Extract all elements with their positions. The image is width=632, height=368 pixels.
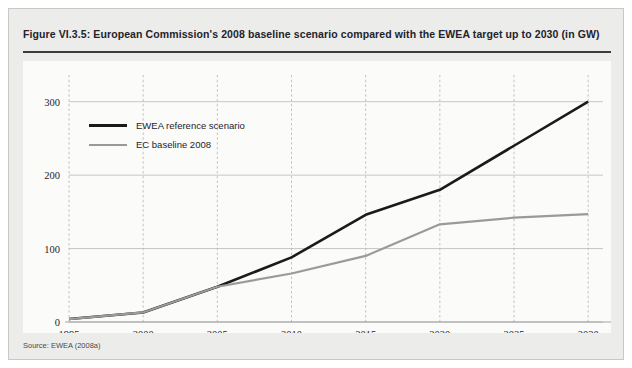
figure-title-bar: Figure VI.3.5: European Commission's 200…	[23, 21, 611, 53]
line-chart: 0100200300 19952000200520102015202020252…	[23, 61, 611, 333]
svg-text:2020: 2020	[429, 329, 450, 333]
svg-text:1995: 1995	[59, 329, 80, 333]
figure-title: Figure VI.3.5: European Commission's 200…	[23, 21, 611, 47]
y-axis-tick-labels: 0100200300	[44, 97, 60, 328]
svg-text:100: 100	[44, 244, 60, 255]
legend-label-ewea: EWEA reference scenario	[136, 120, 245, 131]
svg-text:2015: 2015	[355, 329, 376, 333]
vertical-gridlines	[69, 75, 588, 322]
svg-text:200: 200	[44, 170, 60, 181]
chart-legend: EWEA reference scenario EC baseline 2008	[89, 116, 245, 154]
svg-text:2025: 2025	[504, 329, 525, 333]
legend-item-ewea: EWEA reference scenario	[89, 116, 245, 135]
svg-text:2030: 2030	[578, 329, 599, 333]
svg-text:0: 0	[55, 317, 60, 328]
legend-label-ec: EC baseline 2008	[136, 139, 211, 150]
chart-plot-area: 0100200300 19952000200520102015202020252…	[23, 61, 611, 333]
legend-swatch-ec	[89, 144, 127, 146]
svg-text:2005: 2005	[207, 329, 228, 333]
x-axis-tick-labels: 19952000200520102015202020252030	[59, 329, 599, 333]
svg-text:300: 300	[44, 97, 60, 108]
legend-item-ec: EC baseline 2008	[89, 135, 245, 154]
svg-text:2000: 2000	[133, 329, 154, 333]
source-note: Source: EWEA (2008a)	[23, 341, 101, 350]
figure-panel: Figure VI.3.5: European Commission's 200…	[8, 8, 624, 360]
svg-text:2010: 2010	[281, 329, 302, 333]
legend-swatch-ewea	[89, 124, 127, 127]
